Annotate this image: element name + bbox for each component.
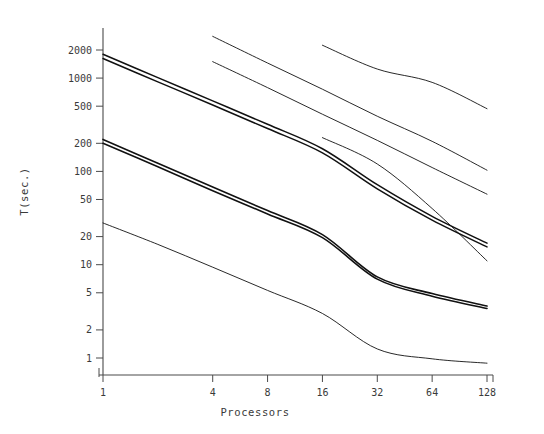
x-axis-tick-label: 128 [478, 387, 496, 398]
y-axis-tick-label: 200 [74, 138, 92, 149]
chart-line-series-8 [103, 143, 487, 308]
chart-plot-svg: 12510205010020050010002000 148163264128 … [0, 0, 544, 434]
y-axis-tick-label: 10 [80, 259, 92, 270]
chart-line-series-3 [213, 62, 487, 195]
y-axis-tick-marks [96, 50, 103, 358]
chart-container: 12510205010020050010002000 148163264128 … [0, 0, 544, 434]
y-axis-tick-label: 5 [86, 287, 92, 298]
x-axis-tick-label: 64 [426, 387, 438, 398]
chart-series-group [103, 36, 487, 363]
x-axis-tick-label: 16 [316, 387, 328, 398]
x-axis-title: Processors [220, 406, 289, 418]
x-axis-tick-label: 1 [100, 387, 106, 398]
x-axis-tick-label: 4 [210, 387, 216, 398]
chart-line-series-2 [322, 45, 487, 108]
y-axis-title: T(sec.) [18, 167, 30, 215]
y-axis-tick-labels: 12510205010020050010002000 [68, 45, 92, 364]
y-axis-tick-label: 1 [86, 353, 92, 364]
y-axis-tick-label: 1000 [68, 73, 92, 84]
y-axis-tick-label: 500 [74, 101, 92, 112]
chart-line-series-7 [103, 139, 487, 306]
x-axis-tick-label: 32 [371, 387, 383, 398]
chart-line-series-6 [322, 138, 487, 261]
x-axis-tick-label: 8 [265, 387, 271, 398]
y-axis-tick-label: 20 [80, 231, 92, 242]
y-axis-tick-label: 50 [80, 194, 92, 205]
chart-line-series-5 [103, 59, 487, 247]
y-axis-tick-label: 2000 [68, 45, 92, 56]
y-axis-tick-label: 100 [74, 166, 92, 177]
x-axis-tick-labels: 148163264128 [100, 387, 496, 398]
y-axis-tick-label: 2 [86, 324, 92, 335]
